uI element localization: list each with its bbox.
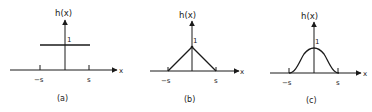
x-axis-label: x: [240, 68, 244, 76]
tick-pos-label: s: [214, 77, 218, 85]
tick-neg-label: −s: [282, 79, 292, 87]
peak-label: 1: [315, 38, 319, 46]
y-axis-label: h(x): [55, 8, 72, 18]
peak-label: 1: [193, 37, 197, 45]
kernel-functions-figure: h(x) x 1 −s s (a) h(x) x 1 −s s (b) h(x)…: [0, 0, 372, 112]
panel-b: h(x) x 1 −s s (b): [150, 10, 244, 104]
panel-a: h(x) x 1 −s s (a): [10, 8, 123, 103]
y-axis-label: h(x): [179, 10, 196, 20]
panel-caption: (a): [57, 94, 68, 103]
tick-neg-label: −s: [34, 76, 44, 84]
tick-pos-label: s: [87, 76, 91, 84]
tick-neg-label: −s: [161, 77, 171, 85]
y-axis-label: h(x): [301, 11, 318, 21]
panel-caption: (c): [306, 96, 317, 105]
panel-caption: (b): [184, 95, 195, 104]
x-axis-label: x: [119, 67, 123, 75]
tick-pos-label: s: [336, 79, 340, 87]
peak-label: 1: [67, 36, 71, 44]
peak-point: [191, 46, 194, 49]
panel-c: h(x) x 1 −s s (c): [270, 11, 367, 105]
x-axis-label: x: [363, 70, 367, 78]
